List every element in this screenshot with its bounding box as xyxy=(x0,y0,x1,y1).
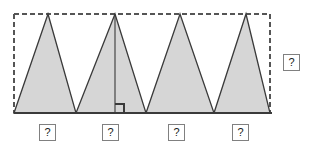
triangles-group xyxy=(14,14,270,113)
triangle-3 xyxy=(146,14,214,113)
height-label[interactable]: ? xyxy=(283,54,300,71)
base-label-1[interactable]: ? xyxy=(39,124,56,141)
triangle-4 xyxy=(214,14,270,113)
triangle-1 xyxy=(14,14,76,113)
base-label-4[interactable]: ? xyxy=(232,124,249,141)
base-label-2[interactable]: ? xyxy=(102,124,119,141)
triangle-2 xyxy=(76,14,146,113)
geometry-figure: ? ? ? ? ? xyxy=(0,0,311,150)
base-label-3[interactable]: ? xyxy=(168,124,185,141)
